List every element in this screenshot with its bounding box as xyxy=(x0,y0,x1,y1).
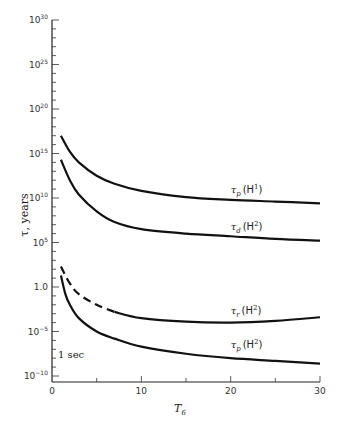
y-tick-exponent: −5 xyxy=(39,325,48,332)
series-labels: τp(H1)τd(H2)τr(H2)τp(H2) xyxy=(231,183,263,353)
series-label: τp(H2) xyxy=(231,338,263,353)
y-tick-exponent: 20 xyxy=(40,102,48,109)
x-tick-label: 10 xyxy=(136,386,148,396)
series-label-species: (H xyxy=(242,305,253,316)
series-label-sub: r xyxy=(236,311,240,319)
y-tick-label: 1020 xyxy=(29,102,48,114)
y-tick-label: 10−5 xyxy=(28,325,48,337)
y-tick-base: 10 xyxy=(28,327,40,337)
series-label-sub: p xyxy=(236,345,241,353)
y-tick-label: 1025 xyxy=(29,58,48,70)
series-line xyxy=(61,160,320,241)
series-label-close: ) xyxy=(259,184,263,195)
series-label-close: ) xyxy=(259,221,263,232)
y-tick-base: 10 xyxy=(33,238,45,248)
y-tick-label: 1015 xyxy=(29,147,48,159)
x-axis-label-sub: 6 xyxy=(181,409,186,417)
y-tick-exponent: 5 xyxy=(44,236,48,243)
annotation-1-sec: 1 sec xyxy=(58,349,85,360)
y-tick-base: 10 xyxy=(29,15,41,25)
series-label: τd(H2) xyxy=(231,220,263,235)
y-tick-exponent: 15 xyxy=(40,147,48,154)
y-tick-base: 10 xyxy=(29,149,41,159)
y-tick-exponent: 30 xyxy=(40,13,48,20)
y-tick-label: 1.0 xyxy=(34,282,49,292)
curves xyxy=(61,136,320,364)
series-label: τr(H2) xyxy=(231,304,262,319)
y-tick-exponent: −10 xyxy=(35,369,48,376)
x-tick-label: 30 xyxy=(314,386,326,396)
series-label: τp(H1) xyxy=(231,183,263,198)
y-tick-label: 10−10 xyxy=(24,369,48,381)
x-tick-label: 0 xyxy=(49,386,55,396)
series-label-close: ) xyxy=(257,305,261,316)
y-tick-label: 1030 xyxy=(29,13,48,25)
series-line xyxy=(115,312,320,323)
x-ticks: 0102030 xyxy=(49,376,326,396)
series-label-species: (H xyxy=(243,184,254,195)
y-tick-exponent: 10 xyxy=(40,191,48,198)
y-axis-label: τ, years xyxy=(18,193,31,237)
series-line xyxy=(61,136,320,204)
y-tick-label: 1010 xyxy=(29,191,48,203)
chart: 103010251020101510101051.010−510−10 0102… xyxy=(0,0,342,427)
y-tick-base: 10 xyxy=(24,371,36,381)
series-label-sub: p xyxy=(236,190,241,198)
x-axis-label: T6 xyxy=(174,402,186,417)
series-label-species: (H xyxy=(243,221,254,232)
y-tick-base: 10 xyxy=(29,104,41,114)
y-tick-label: 105 xyxy=(33,236,48,248)
y-tick-exponent: 25 xyxy=(40,58,48,65)
series-label-close: ) xyxy=(259,339,263,350)
y-tick-base: 10 xyxy=(29,60,41,70)
x-tick-label: 20 xyxy=(225,386,237,396)
series-label-species: (H xyxy=(243,339,254,350)
series-label-sub: d xyxy=(236,227,241,235)
y-tick-base: 1.0 xyxy=(34,282,49,292)
